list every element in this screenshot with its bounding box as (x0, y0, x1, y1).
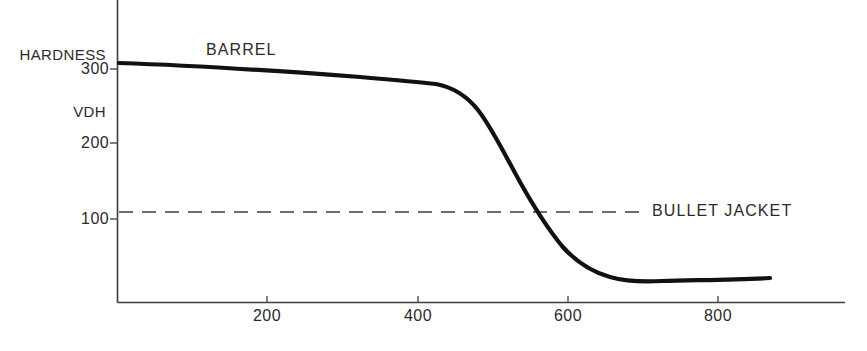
x-tick-label-800: 800 (683, 307, 753, 325)
series-label-bullet-jacket: BULLET JACKET (652, 202, 792, 220)
x-axis-title: TEMPERATURE °C (748, 316, 862, 351)
x-tick-label-200: 200 (232, 307, 302, 325)
hardness-vs-temperature-chart: HARDNESS VDH TEMPERATURE °C 300 200 100 … (0, 0, 867, 351)
chart-canvas (0, 0, 867, 351)
series-label-barrel: BARREL (206, 41, 277, 59)
y-tick-label-300: 300 (49, 60, 109, 78)
x-tick-label-600: 600 (533, 307, 603, 325)
y-tick-label-100: 100 (49, 210, 109, 228)
barrel-hardness-curve (119, 63, 770, 282)
y-tick-label-200: 200 (49, 134, 109, 152)
x-tick-label-400: 400 (383, 307, 453, 325)
y-axis-title-line2: VDH (6, 102, 106, 121)
